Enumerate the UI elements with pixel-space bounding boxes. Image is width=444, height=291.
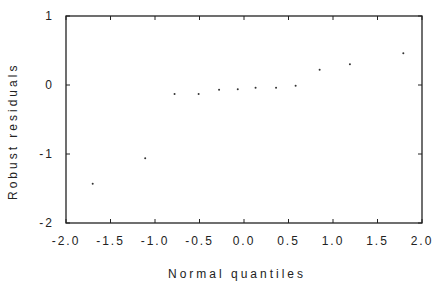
data-point <box>319 69 321 71</box>
x-axis-label: Normal quantiles <box>0 267 444 281</box>
data-point <box>198 93 200 95</box>
qq-plot: -2.0-1.5-1.0-0.50.00.51.01.52.0 10-1-2 <box>0 0 444 291</box>
x-tick-label: 1.5 <box>366 234 389 248</box>
x-tick-label: 0.5 <box>277 234 300 248</box>
y-tick-label: -1 <box>39 147 54 161</box>
data-point <box>218 89 220 91</box>
x-tick-label: 1.0 <box>322 234 345 248</box>
data-point <box>275 87 277 89</box>
data-point <box>237 88 239 90</box>
x-tick-label: 2.0 <box>411 234 434 248</box>
data-point <box>144 157 146 159</box>
plot-frame <box>66 16 422 223</box>
data-point <box>92 183 94 185</box>
x-tick-label: 0.0 <box>233 234 256 248</box>
data-point <box>402 52 404 54</box>
data-points <box>92 52 405 184</box>
data-point <box>174 93 176 95</box>
y-axis-ticks: 10-1-2 <box>39 9 422 230</box>
data-point <box>255 87 257 89</box>
data-point <box>295 85 297 87</box>
x-tick-label: -1.0 <box>141 234 170 248</box>
x-axis-ticks: -2.0-1.5-1.0-0.50.00.51.01.52.0 <box>52 16 434 248</box>
y-axis-label: Robust residuals <box>6 63 20 200</box>
x-tick-label: -2.0 <box>52 234 81 248</box>
y-tick-label: 1 <box>45 9 54 23</box>
plot-border <box>66 16 422 223</box>
y-tick-label: 0 <box>45 78 54 92</box>
x-tick-label: -1.5 <box>96 234 125 248</box>
x-tick-label: -0.5 <box>185 234 214 248</box>
y-tick-label: -2 <box>39 216 54 230</box>
data-point <box>349 63 351 65</box>
